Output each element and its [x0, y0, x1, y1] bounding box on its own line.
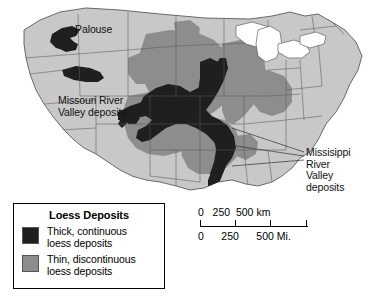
legend-swatch-thin — [22, 255, 39, 272]
legend-label-thin: Thin, discontinuous loess deposits — [47, 254, 136, 277]
scale-bar: 0 250 500 km 0 250 500 Mi. — [198, 206, 323, 242]
legend-box: Loess Deposits Thick, continuous loess d… — [13, 203, 165, 289]
scale-bar-mi-labels: 0 250 500 Mi. — [198, 230, 323, 242]
legend-swatch-thick — [22, 227, 39, 244]
legend-item-thick: Thick, continuous loess deposits — [14, 226, 164, 249]
map-label-palouse: Palouse — [75, 24, 112, 36]
legend-title: Loess Deposits — [14, 209, 164, 221]
legend-item-thin: Thin, discontinuous loess deposits — [14, 254, 164, 277]
loess-deposits-map: Palouse Missouri River Valley deposits M… — [0, 0, 375, 300]
map-label-missouri-river-valley: Missouri River Valley deposits — [58, 95, 126, 118]
map-label-mississippi-river-valley: Missisippi River Valley deposits — [306, 147, 351, 193]
legend-label-thick: Thick, continuous loess deposits — [47, 226, 127, 249]
scale-bar-km-labels: 0 250 500 km — [198, 206, 323, 218]
